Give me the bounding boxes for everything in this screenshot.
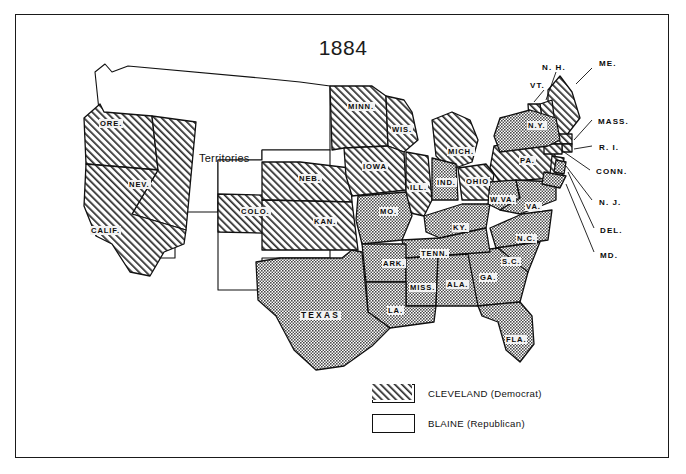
state-label-oregon: ORE.: [99, 119, 123, 128]
legend-row-blaine: BLAINE (Republican): [372, 414, 542, 433]
legend-swatch-blaine: [372, 414, 415, 433]
state-label-connecticut: CONN.: [595, 167, 628, 176]
state-label-nebraska: NEB.: [298, 174, 322, 183]
state-florida: [478, 302, 534, 362]
us-election-map-svg: [0, 0, 686, 474]
state-label-alabama: ALA.: [446, 280, 469, 289]
state-label-massachusetts: MASS.: [597, 117, 630, 126]
state-iowa: [344, 146, 406, 196]
map-stage: Territories ORE. NEV. CALIF. COLO. NEB. …: [0, 0, 686, 474]
state-label-westvirginia: W.VA.: [489, 195, 516, 204]
state-label-northcarolina: N.C.: [516, 234, 537, 243]
state-label-michigan: MICH.: [447, 147, 475, 156]
state-label-tennessee: TENN.: [420, 249, 449, 258]
state-label-pennsylvania: PA.: [519, 156, 536, 165]
state-label-arkansas: ARK.: [382, 259, 406, 268]
state-label-indiana: IND.: [436, 178, 457, 187]
state-label-iowa: IOWA: [362, 162, 388, 171]
territories-label: Territories: [199, 152, 250, 164]
state-label-newyork: N.Y.: [527, 121, 547, 130]
state-label-rhodeisland: R. I.: [598, 143, 620, 152]
state-label-louisiana: LA.: [387, 306, 404, 315]
state-kansas: [262, 200, 358, 250]
state-label-kentucky: KY.: [452, 223, 469, 232]
state-mississippi: [406, 256, 438, 306]
state-label-minnesota: MINN.: [347, 102, 375, 111]
state-label-illinois: ILL.: [409, 183, 428, 192]
state-label-missouri: MO.: [379, 207, 398, 216]
state-missouri: [356, 192, 412, 244]
state-label-maine: ME.: [598, 59, 618, 68]
state-label-wisconsin: WIS.: [391, 125, 413, 134]
state-label-california: CALIF.: [90, 226, 121, 235]
map-legend: CLEVELAND (Democrat) BLAINE (Republican): [372, 384, 542, 444]
state-label-colorado: COLO.: [240, 207, 271, 216]
state-label-mississippi: MISS.: [409, 283, 436, 292]
state-delaware: [554, 160, 566, 174]
legend-label-cleveland: CLEVELAND (Democrat): [428, 388, 542, 399]
legend-label-blaine: BLAINE (Republican): [428, 418, 525, 429]
state-label-maryland: MD.: [599, 251, 619, 260]
state-label-georgia: GA.: [479, 273, 497, 282]
state-label-virginia: VA.: [525, 202, 542, 211]
state-rhodeisland: [562, 144, 572, 152]
state-label-florida: FLA.: [505, 335, 527, 344]
state-label-newhampshire: N. H.: [541, 63, 567, 72]
state-label-kansas: KAN.: [313, 217, 337, 226]
state-label-ohio: OHIO: [465, 177, 490, 186]
state-wisconsin: [386, 96, 418, 152]
state-label-delaware: DEL.: [599, 226, 624, 235]
state-label-texas: TEXAS: [300, 311, 341, 320]
state-label-vermont: VT.: [529, 81, 546, 90]
state-label-southcarolina: S.C.: [501, 257, 521, 266]
state-label-newjersey: N. J.: [598, 198, 622, 207]
state-label-nevada: NEV.: [128, 180, 151, 189]
state-minnesota: [330, 86, 388, 150]
